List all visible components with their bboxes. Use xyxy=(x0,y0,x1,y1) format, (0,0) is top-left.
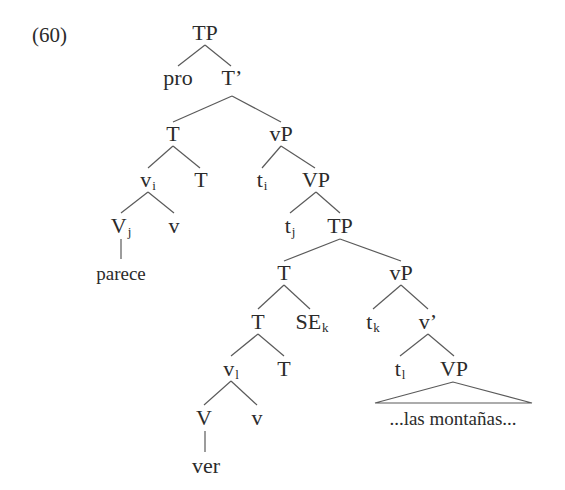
tree-branch xyxy=(173,146,200,168)
node-label: v xyxy=(252,405,263,430)
tree-node: SEk xyxy=(295,311,328,334)
node-label: parece xyxy=(96,263,146,284)
node-label: VP xyxy=(302,167,330,192)
tree-branch xyxy=(232,96,281,122)
tree-branch xyxy=(262,146,281,168)
node-label: v xyxy=(223,356,234,381)
node-index-subscript: l xyxy=(235,367,239,382)
tree-branch xyxy=(281,146,315,168)
tree-node: v xyxy=(252,407,263,429)
tree-branch xyxy=(284,239,340,261)
tree-branch xyxy=(428,334,454,356)
tree-branch xyxy=(178,45,205,66)
node-label: VP xyxy=(440,356,468,381)
node-label: t xyxy=(285,213,291,238)
node-label: ver xyxy=(192,453,220,478)
node-index-subscript: j xyxy=(128,224,132,239)
node-index-subscript: l xyxy=(402,367,406,382)
node-index-subscript: k xyxy=(373,320,380,335)
tree-node: tl xyxy=(395,358,406,381)
node-label: V xyxy=(196,405,212,430)
tree-node: T xyxy=(194,169,207,191)
tree-node: ...las montañas... xyxy=(389,409,516,428)
tree-branch xyxy=(231,334,258,356)
node-label: vP xyxy=(389,260,412,285)
node-label: T xyxy=(194,167,207,192)
tree-node: ver xyxy=(192,455,220,477)
tree-node: vi xyxy=(140,169,156,192)
tree-branch xyxy=(148,192,174,213)
tree-branch xyxy=(316,192,340,213)
node-index-subscript: k xyxy=(322,320,329,335)
tree-node: parece xyxy=(96,264,146,283)
tree-node: TP xyxy=(327,215,353,237)
tree-node: V xyxy=(196,407,212,429)
tree-branch xyxy=(340,239,401,261)
tree-node: VP xyxy=(440,358,468,380)
tree-branch xyxy=(401,285,428,309)
node-label: vP xyxy=(269,121,292,146)
tree-branch xyxy=(148,146,173,168)
node-label: TP xyxy=(327,213,353,238)
tree-node: T xyxy=(166,123,179,145)
node-label: v’ xyxy=(419,309,437,334)
node-label: t xyxy=(366,309,372,334)
tree-node: VP xyxy=(302,169,330,191)
tree-branch xyxy=(258,334,284,356)
constituent-triangle xyxy=(375,382,532,403)
tree-node: TP xyxy=(192,22,218,44)
tree-node: Vj xyxy=(111,215,132,238)
tree-node: tk xyxy=(366,311,380,334)
tree-node: v’ xyxy=(419,311,437,333)
node-index-subscript: i xyxy=(264,178,268,193)
node-label: v xyxy=(169,213,180,238)
tree-branch xyxy=(121,192,148,213)
node-label: T xyxy=(277,356,290,381)
tree-node: T’ xyxy=(222,67,243,89)
tree-branch xyxy=(173,96,232,122)
node-label: T’ xyxy=(222,65,243,90)
node-label: T xyxy=(251,309,264,334)
tree-node: pro xyxy=(163,67,192,89)
tree-branch xyxy=(284,285,310,309)
node-label: t xyxy=(257,167,263,192)
tree-node: T xyxy=(277,262,290,284)
tree-branch xyxy=(400,334,428,356)
node-label: pro xyxy=(163,65,192,90)
tree-node: T xyxy=(251,311,264,333)
node-label: t xyxy=(395,356,401,381)
node-label: v xyxy=(140,167,151,192)
tree-branch xyxy=(373,285,401,309)
tree-node: tj xyxy=(285,215,296,238)
tree-branch xyxy=(205,45,231,66)
tree-branch xyxy=(258,285,284,309)
node-label: SE xyxy=(295,309,321,334)
tree-node: v xyxy=(169,215,180,237)
tree-branch xyxy=(290,192,316,213)
tree-branch xyxy=(231,381,257,405)
node-label: V xyxy=(111,213,127,238)
node-index-subscript: j xyxy=(292,224,296,239)
tree-node: vl xyxy=(223,358,239,381)
tree-node: vP xyxy=(269,123,292,145)
node-label: ...las montañas... xyxy=(389,408,516,429)
node-label: T xyxy=(166,121,179,146)
tree-node: T xyxy=(277,358,290,380)
tree-branch xyxy=(204,381,231,405)
node-index-subscript: i xyxy=(152,178,156,193)
tree-node: vP xyxy=(389,262,412,284)
tree-node: ti xyxy=(257,169,268,192)
syntax-tree-diagram: (60) TPproT’TvPviTtiVPVjvparecetjTPTvPTS… xyxy=(0,0,565,490)
node-label: TP xyxy=(192,20,218,45)
node-label: T xyxy=(277,260,290,285)
